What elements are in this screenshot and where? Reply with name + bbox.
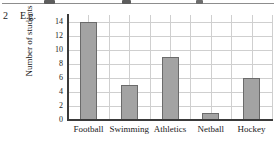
x-axis-line	[67, 119, 273, 121]
bar-chart: Number of students 02468101214 FootballS…	[0, 0, 279, 141]
y-axis-tick-label: 0	[49, 116, 63, 124]
x-axis-tick-label: Hockey	[222, 124, 279, 135]
y-axis-tick-label: 14	[49, 18, 63, 26]
y-axis-tick-label: 12	[49, 32, 63, 40]
y-axis-tick-label: 10	[49, 46, 63, 54]
gridline-vertical	[150, 15, 151, 120]
plot-area	[68, 15, 272, 120]
bar	[121, 85, 138, 120]
y-axis-tick-label: 8	[49, 60, 63, 68]
y-axis-title: Number of students	[24, 0, 34, 91]
bar	[162, 57, 179, 120]
y-axis-line	[67, 14, 69, 121]
gridline-vertical	[190, 15, 191, 120]
gridline-vertical	[231, 15, 232, 120]
bar	[243, 78, 260, 120]
gridline-vertical	[211, 15, 212, 120]
y-axis-tick-label: 2	[49, 102, 63, 110]
y-axis-tick-label: 6	[49, 74, 63, 82]
bar	[80, 22, 97, 120]
y-axis-tick-label: 4	[49, 88, 63, 96]
page-root: 2 E.g. Number of students 02468101214 Fo…	[0, 0, 279, 141]
gridline-vertical	[272, 15, 273, 120]
gridline-vertical	[109, 15, 110, 120]
